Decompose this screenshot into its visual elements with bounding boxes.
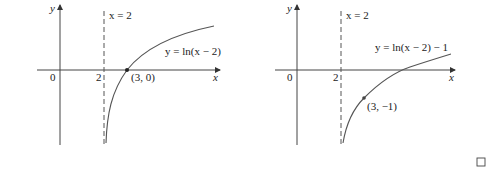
right-tick-2: 2 xyxy=(333,71,339,83)
left-origin-label: 0 xyxy=(50,71,56,83)
right-curve-label: y = ln(x − 2) − 1 xyxy=(375,41,448,54)
left-log-curve xyxy=(106,26,214,143)
left-x-label: x xyxy=(212,71,218,83)
right-y-label: y xyxy=(286,2,292,14)
right-point-marker xyxy=(362,96,366,100)
right-log-curve xyxy=(343,54,451,143)
right-asymptote-label: x = 2 xyxy=(346,9,369,21)
left-asymptote-label: x = 2 xyxy=(109,9,132,21)
end-of-proof-box xyxy=(477,158,485,166)
right-graph: y x 0 2 x = 2 y = ln(x − 2) − 1 (3, −1) xyxy=(275,2,455,145)
left-point-marker xyxy=(125,68,129,72)
figure-canvas: y x 0 2 x = 2 y = ln(x − 2) (3, 0) y x 0… xyxy=(0,0,487,170)
left-graph: y x 0 2 x = 2 y = ln(x − 2) (3, 0) xyxy=(37,2,221,145)
left-tick-2: 2 xyxy=(96,71,102,83)
left-point-label: (3, 0) xyxy=(131,71,155,84)
left-curve-label: y = ln(x − 2) xyxy=(165,45,221,58)
right-x-label: x xyxy=(448,71,454,83)
left-y-label: y xyxy=(49,2,55,14)
right-origin-label: 0 xyxy=(287,71,293,83)
right-point-label: (3, −1) xyxy=(367,100,397,113)
